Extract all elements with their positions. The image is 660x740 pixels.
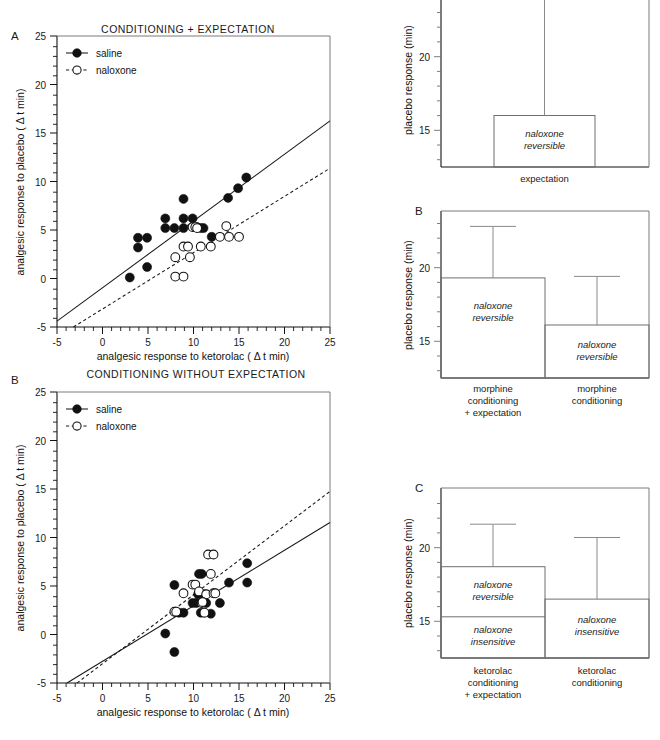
bar-expectation-segment-label-line2: reversible bbox=[524, 140, 565, 151]
legend-b-naloxone-label: naloxone bbox=[96, 421, 137, 432]
scatter-panel-a: A CONDITIONING + EXPECTATION bbox=[11, 23, 336, 362]
bar-c-y-ticks bbox=[434, 504, 441, 651]
svg-text:-5: -5 bbox=[37, 678, 46, 689]
svg-text:10: 10 bbox=[188, 337, 200, 348]
svg-text:5: 5 bbox=[40, 581, 46, 592]
legend-b-saline-marker bbox=[73, 405, 82, 414]
bar-b-y-ticks bbox=[434, 224, 441, 371]
bar-b-category-labels: morphine conditioning + expectation morp… bbox=[465, 383, 623, 418]
svg-text:5: 5 bbox=[40, 225, 46, 236]
svg-text:25: 25 bbox=[35, 31, 47, 42]
svg-text:0: 0 bbox=[100, 337, 106, 348]
panel-b-x-axis-title: analgesic response to ketorolac ( Δ t mi… bbox=[97, 706, 290, 718]
panel-b-y-ticks bbox=[50, 392, 57, 683]
panel-letter-b: B bbox=[11, 374, 19, 386]
bar-c2-category-line2: conditioning bbox=[572, 677, 623, 688]
panel-b-y-axis-title: analgesic response to placebo ( Δ t min) bbox=[14, 445, 26, 632]
legend-b-saline-label: saline bbox=[96, 404, 123, 415]
svg-text:15: 15 bbox=[35, 128, 47, 139]
bar-b-y-axis-title: placebo response (min) bbox=[402, 240, 414, 350]
svg-text:15: 15 bbox=[233, 693, 245, 704]
bar-panel-b: B 20 15 placebo respon bbox=[402, 205, 649, 418]
legend-saline-marker bbox=[73, 49, 82, 58]
figure-svg: A CONDITIONING + EXPECTATION bbox=[0, 0, 660, 740]
panel-a-x-ticks bbox=[57, 327, 330, 334]
svg-text:0: 0 bbox=[40, 630, 46, 641]
bar-panel-c-letter: C bbox=[415, 482, 423, 494]
bar-c1-seg1-label-line2: reversible bbox=[472, 591, 513, 602]
svg-text:-5: -5 bbox=[37, 322, 46, 333]
bar-c2-segment-label-line1: naloxone bbox=[578, 614, 617, 625]
svg-text:20: 20 bbox=[35, 80, 47, 91]
svg-text:10: 10 bbox=[35, 533, 47, 544]
bar-panel-top: 20 15 placebo response (min) naloxone re… bbox=[402, 0, 649, 184]
panel-a-legend: saline naloxone bbox=[66, 48, 137, 76]
bar-b-y-tick-labels: 20 15 bbox=[419, 263, 431, 348]
svg-text:20: 20 bbox=[279, 693, 291, 704]
svg-text:20: 20 bbox=[419, 263, 431, 274]
bar-expectation-segment-label-line1: naloxone bbox=[525, 128, 564, 139]
panel-b-title: CONDITIONING WITHOUT EXPECTATION bbox=[86, 368, 305, 380]
svg-text:15: 15 bbox=[419, 125, 431, 136]
svg-text:10: 10 bbox=[35, 177, 47, 188]
panel-a-x-axis-title: analgesic response to ketorolac ( Δ t mi… bbox=[97, 350, 290, 362]
panel-a-title: CONDITIONING + EXPECTATION bbox=[101, 23, 275, 35]
panel-a-x-tick-labels: -5 0 5 10 15 20 25 bbox=[53, 337, 336, 348]
svg-text:25: 25 bbox=[35, 387, 47, 398]
bar-b2-category-line2: conditioning bbox=[572, 395, 623, 406]
svg-text:0: 0 bbox=[100, 693, 106, 704]
svg-text:20: 20 bbox=[35, 436, 47, 447]
panel-a-y-ticks bbox=[50, 36, 57, 327]
bar-c-category-labels: ketorolac conditioning + expectation ket… bbox=[465, 665, 623, 700]
legend-naloxone-marker bbox=[73, 66, 81, 74]
legend-b-naloxone-marker bbox=[73, 422, 81, 430]
bar-b2-category-line1: morphine bbox=[577, 383, 617, 394]
bar-c1-seg2-label-line1: naloxone bbox=[474, 624, 513, 635]
svg-text:15: 15 bbox=[233, 337, 245, 348]
svg-text:15: 15 bbox=[35, 484, 47, 495]
bar-c1-category-line2: conditioning bbox=[468, 677, 519, 688]
bar-b1-category-line1: morphine bbox=[473, 383, 513, 394]
bar-b1-category-line2: conditioning bbox=[468, 395, 519, 406]
panel-b-y-tick-labels: 25 20 15 10 5 0 -5 bbox=[35, 387, 47, 689]
scatter-panel-b: B CONDITIONING WITHOUT EXPECTATION bbox=[11, 368, 336, 718]
bar-b1-segment-label-line1: naloxone bbox=[474, 300, 513, 311]
panel-a-y-tick-labels: 25 20 15 10 5 0 -5 bbox=[35, 31, 47, 333]
svg-text:20: 20 bbox=[419, 52, 431, 63]
svg-text:-5: -5 bbox=[53, 693, 62, 704]
panel-b-x-ticks bbox=[57, 683, 330, 690]
svg-text:20: 20 bbox=[279, 337, 291, 348]
figure-root: A CONDITIONING + EXPECTATION bbox=[0, 0, 660, 740]
bar-expectation-category: expectation bbox=[520, 173, 569, 184]
panel-b-x-tick-labels: -5 0 5 10 15 20 25 bbox=[53, 693, 336, 704]
svg-text:5: 5 bbox=[145, 693, 151, 704]
legend-saline-label: saline bbox=[96, 48, 123, 59]
bar-c2-segment-label-line2: insensitive bbox=[575, 626, 619, 637]
svg-text:20: 20 bbox=[419, 543, 431, 554]
bar-panel-b-letter: B bbox=[415, 205, 423, 217]
bar-c-y-axis-title: placebo response (min) bbox=[402, 518, 414, 628]
panel-letter-a: A bbox=[11, 30, 19, 42]
bar-c1-seg1-label-line1: naloxone bbox=[474, 579, 513, 590]
panel-b-legend: saline naloxone bbox=[66, 404, 137, 432]
panel-a-y-axis-title: analgesic response to placebo ( Δ t min) bbox=[14, 89, 26, 276]
svg-text:-5: -5 bbox=[53, 337, 62, 348]
bar-c-y-tick-labels: 20 15 bbox=[419, 543, 431, 628]
svg-text:15: 15 bbox=[419, 616, 431, 627]
legend-naloxone-label: naloxone bbox=[96, 65, 137, 76]
bar-b1-category-line3: + expectation bbox=[465, 407, 522, 418]
svg-text:25: 25 bbox=[324, 337, 336, 348]
bar-c2-category-line1: ketorolac bbox=[578, 665, 617, 676]
bar-c1-category-line3: + expectation bbox=[465, 689, 522, 700]
svg-text:10: 10 bbox=[188, 693, 200, 704]
bar-panel-c: C 20 15 placebo respon bbox=[402, 482, 649, 700]
panel-b-fit-naloxone bbox=[77, 491, 330, 683]
bar-c1-seg2-label-line2: insensitive bbox=[471, 636, 515, 647]
svg-text:25: 25 bbox=[324, 693, 336, 704]
bar-b2-segment-label-line2: reversible bbox=[576, 351, 617, 362]
bar-top-y-axis-title: placebo response (min) bbox=[402, 25, 414, 135]
bar-b2-segment-label-line1: naloxone bbox=[578, 339, 617, 350]
bar-morphine-conditioning-expectation bbox=[441, 278, 545, 378]
svg-text:5: 5 bbox=[145, 337, 151, 348]
bar-top-y-tick-labels: 20 15 bbox=[419, 52, 431, 137]
